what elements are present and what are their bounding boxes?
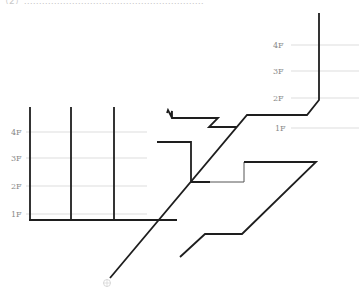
- left-label-4f: 4F: [11, 128, 22, 137]
- right-label-2f: 2F: [273, 94, 284, 103]
- left-label-1f: 1F: [11, 210, 22, 219]
- left-floor-guides: 4F 3F 2F 1F: [11, 128, 147, 219]
- pipe-isometric-diagram: 4F 3F 2F 1F 4F 3F 2F 1F: [0, 0, 359, 300]
- branch-pipe-step: [157, 142, 210, 182]
- branch-pipe-upper: [167, 110, 237, 127]
- endpoint-marker: [104, 280, 111, 287]
- left-label-3f: 3F: [11, 154, 22, 163]
- left-label-2f: 2F: [11, 182, 22, 191]
- right-floor-guides: 4F 3F 2F 1F: [273, 41, 359, 133]
- main-pipe-run: [110, 13, 319, 278]
- right-label-3f: 3F: [273, 67, 284, 76]
- left-risers: [29, 107, 177, 220]
- right-riser-main: [110, 13, 319, 278]
- branch-pipe-lower: [180, 162, 316, 257]
- right-label-4f: 4F: [273, 41, 284, 50]
- branch-pipe-box: [210, 162, 244, 182]
- right-label-1f: 1F: [275, 124, 286, 133]
- branch-with-break: [167, 110, 237, 127]
- stepped-branch: [157, 142, 316, 257]
